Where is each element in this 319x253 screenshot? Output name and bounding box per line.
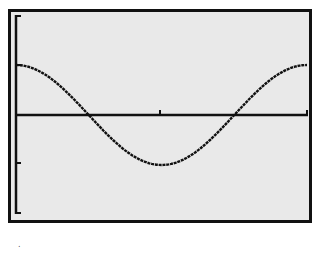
caption-mark: . <box>18 240 21 249</box>
graph-plot <box>0 0 319 253</box>
